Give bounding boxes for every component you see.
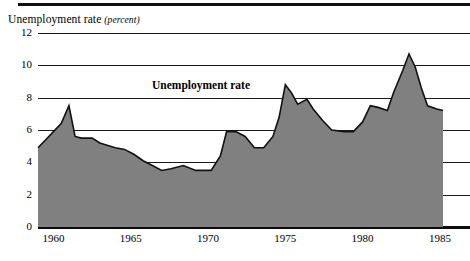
x-tick-label-1970: 1970 bbox=[186, 233, 230, 244]
x-tick-label-1985: 1985 bbox=[418, 233, 462, 244]
y-tick-label-2: 2 bbox=[2, 189, 32, 200]
y-tick-label-4: 4 bbox=[2, 156, 32, 167]
y-tick-label-10: 10 bbox=[2, 59, 32, 70]
gridline-6 bbox=[38, 130, 470, 131]
x-tick-label-1960: 1960 bbox=[31, 233, 75, 244]
y-tick-label-0: 0 bbox=[2, 221, 32, 232]
y-tick-label-12: 12 bbox=[2, 27, 32, 38]
gridline-2 bbox=[38, 195, 470, 196]
gridline-4 bbox=[38, 162, 470, 163]
gridline-8 bbox=[38, 98, 470, 99]
gridline-12 bbox=[38, 33, 470, 34]
gridline-0 bbox=[38, 226, 470, 229]
x-tick-label-1980: 1980 bbox=[341, 233, 385, 244]
x-tick-label-1965: 1965 bbox=[109, 233, 153, 244]
chart-plot-area: 024681012 196019651970197519801985 Unemp… bbox=[0, 0, 470, 261]
area-outline-path bbox=[38, 54, 443, 170]
y-tick-label-6: 6 bbox=[2, 124, 32, 135]
gridline-10 bbox=[38, 65, 470, 66]
y-tick-label-8: 8 bbox=[2, 92, 32, 103]
x-tick-label-1975: 1975 bbox=[263, 233, 307, 244]
series-inline-label: Unemployment rate bbox=[152, 79, 250, 92]
